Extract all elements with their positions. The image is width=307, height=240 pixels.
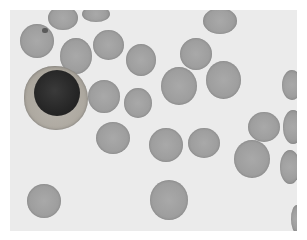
platelet (42, 28, 48, 33)
red-blood-cell (282, 70, 297, 100)
red-blood-cell (291, 205, 297, 231)
red-blood-cell (48, 10, 78, 30)
red-blood-cell (180, 38, 212, 70)
red-blood-cell (20, 24, 54, 58)
red-blood-cell (206, 61, 241, 99)
red-blood-cell (203, 10, 237, 34)
red-blood-cell (82, 10, 110, 22)
red-blood-cell (248, 112, 280, 142)
red-blood-cell (161, 67, 197, 105)
red-blood-cell (93, 30, 124, 60)
red-blood-cell (234, 140, 270, 178)
red-blood-cell (280, 150, 297, 184)
red-blood-cell (149, 128, 183, 162)
red-blood-cell (88, 80, 120, 113)
red-blood-cell (96, 122, 130, 154)
red-blood-cell (27, 184, 61, 218)
red-blood-cell (283, 110, 297, 144)
micrograph-frame: Blood smear micrograph: leukocyte with d… (10, 10, 297, 231)
red-blood-cell (124, 88, 152, 118)
cell-nucleus (34, 70, 80, 116)
red-blood-cell (126, 44, 156, 76)
red-blood-cell (188, 128, 220, 158)
red-blood-cell (150, 180, 188, 220)
